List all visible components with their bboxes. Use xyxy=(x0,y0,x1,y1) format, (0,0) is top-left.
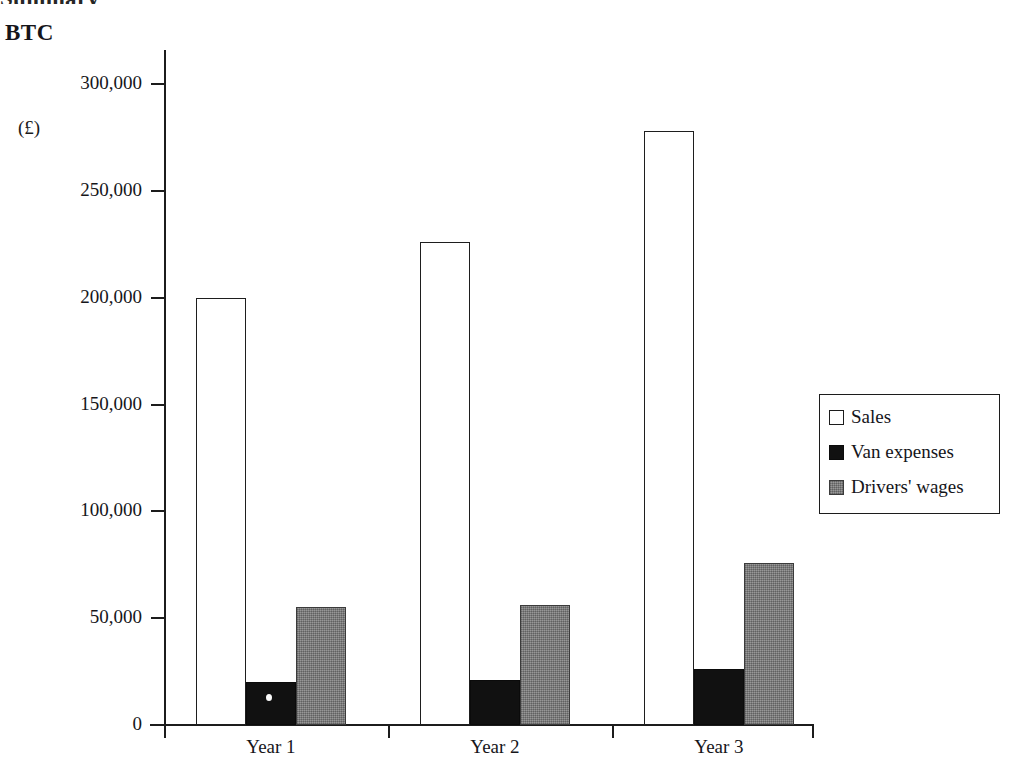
x-axis-category-label-1: Year 1 xyxy=(171,736,371,758)
bar-year-1-sales xyxy=(196,298,246,725)
x-axis-tick xyxy=(164,725,166,738)
y-axis-tick-label: 50,000 xyxy=(30,607,142,626)
black-square-icon xyxy=(829,445,844,460)
y-axis-line xyxy=(164,50,166,726)
bar-year-1-drivers-wages xyxy=(296,607,346,725)
y-axis-tick-label-text: 200,000 xyxy=(32,287,142,306)
bar-year-3-drivers-wages xyxy=(744,563,794,725)
white-square-icon xyxy=(829,410,844,425)
x-axis-tick xyxy=(388,725,390,738)
gray-square-icon xyxy=(829,480,844,495)
bar-year-2-sales xyxy=(420,242,470,725)
y-axis-tick-label: 100,000 xyxy=(30,500,142,519)
y-axis-tick-label-text: 50,000 xyxy=(32,607,142,626)
y-axis-tick xyxy=(151,297,165,299)
bar-chart-plot-area: 050,000100,000150,000200,000250,000300,0… xyxy=(0,0,1016,769)
legend-item-label: Drivers' wages xyxy=(851,477,964,497)
scan-artifact-speck xyxy=(266,694,272,701)
bar-year-3-sales xyxy=(644,131,694,725)
y-axis-tick-label-text: 0 xyxy=(32,714,142,733)
legend-item-label: Sales xyxy=(851,407,891,427)
y-axis-tick xyxy=(151,83,165,85)
y-axis-tick-label: 200,000 xyxy=(30,287,142,306)
y-axis-tick-label-text: 250,000 xyxy=(32,180,142,199)
y-axis-tick-label: 0 xyxy=(30,714,142,733)
bar-year-1-van-expenses xyxy=(246,682,296,725)
y-axis-tick xyxy=(151,404,165,406)
x-axis-category-label-3: Year 3 xyxy=(619,736,819,758)
y-axis-tick-label-text: 300,000 xyxy=(32,73,142,92)
bar-year-3-van-expenses xyxy=(694,669,744,725)
legend-item-drivers-wages: Drivers' wages xyxy=(829,477,964,497)
legend-item-van-expenses: Van expenses xyxy=(829,442,954,462)
y-axis-tick-label-text: 100,000 xyxy=(32,500,142,519)
y-axis-tick xyxy=(151,190,165,192)
y-axis-tick-label: 250,000 xyxy=(30,180,142,199)
legend-item-label: Van expenses xyxy=(851,442,954,462)
y-axis-tick xyxy=(151,724,165,726)
y-axis-tick-label-text: 150,000 xyxy=(32,394,142,413)
legend-item-sales: Sales xyxy=(829,407,891,427)
chart-legend: SalesVan expensesDrivers' wages xyxy=(819,394,1000,514)
bar-year-2-drivers-wages xyxy=(520,605,570,725)
y-axis-tick-label: 150,000 xyxy=(30,394,142,413)
x-axis-tick xyxy=(612,725,614,738)
x-axis-category-label-2: Year 2 xyxy=(395,736,595,758)
y-axis-tick-label: 300,000 xyxy=(30,73,142,92)
y-axis-tick xyxy=(151,617,165,619)
y-axis-tick xyxy=(151,510,165,512)
bar-year-2-van-expenses xyxy=(470,680,520,725)
